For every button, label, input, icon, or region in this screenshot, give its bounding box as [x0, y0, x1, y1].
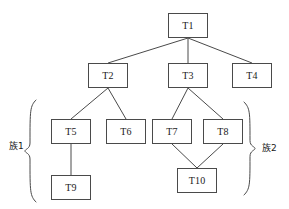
node-box-t6[interactable]: T6 [106, 119, 146, 144]
node-box-t5[interactable]: T5 [51, 119, 91, 144]
node-box-t9[interactable]: T9 [51, 175, 91, 200]
brace-group-2 [244, 102, 255, 195]
group-label-group-2: 族2 [262, 144, 277, 153]
node-box-t1[interactable]: T1 [168, 13, 208, 38]
edge-t2-t5 [71, 88, 108, 119]
node-box-t7[interactable]: T7 [152, 119, 192, 144]
diagram-edges-layer [0, 0, 289, 209]
edge-t8-t10 [197, 144, 223, 168]
tree-diagram-canvas: T1T2T3T4T5T6T7T8T9T10 族1族2 [0, 0, 289, 209]
edge-t3-t7 [172, 88, 188, 119]
edge-lines [71, 38, 252, 175]
node-box-t3[interactable]: T3 [168, 63, 208, 88]
node-box-t2[interactable]: T2 [88, 63, 128, 88]
brace-group-1 [25, 100, 36, 202]
edge-t1-t4 [188, 38, 252, 63]
node-box-t10[interactable]: T10 [177, 168, 217, 193]
node-box-t4[interactable]: T4 [232, 63, 272, 88]
edge-t2-t6 [108, 88, 126, 119]
edge-t3-t8 [188, 88, 223, 119]
edge-t7-t10 [172, 144, 197, 168]
group-label-group-1: 族1 [9, 142, 24, 151]
node-box-t8[interactable]: T8 [203, 119, 243, 144]
edge-t1-t2 [108, 38, 188, 63]
